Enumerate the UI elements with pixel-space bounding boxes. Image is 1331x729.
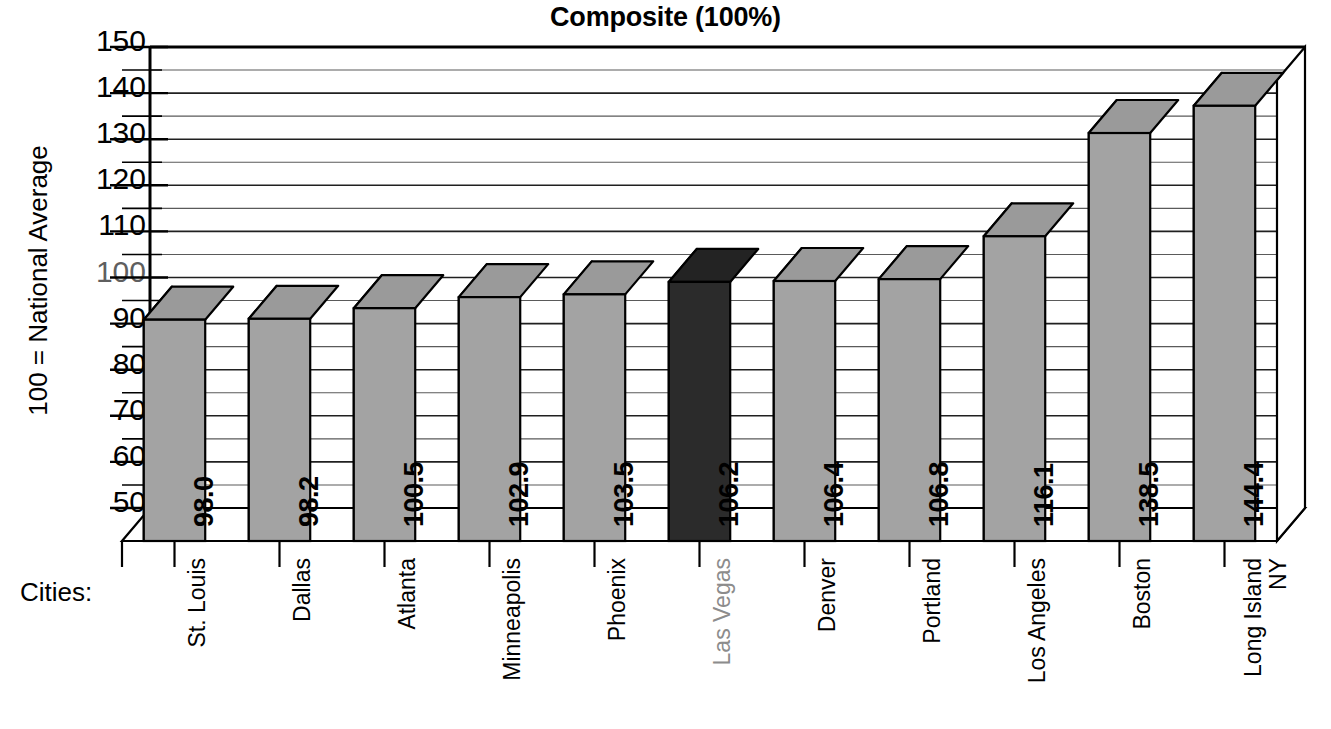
x-axis-category-label-line: St. Louis	[185, 558, 210, 718]
bar-value-label: 144.4	[1239, 462, 1270, 527]
x-axis-category-label-line: Minneapolis	[500, 558, 525, 718]
x-axis-category-label: Denver	[815, 558, 840, 718]
x-axis-category-label-line: Boston	[1130, 558, 1155, 718]
bar-value-label: 106.4	[819, 462, 850, 527]
x-axis-category-label: Las Vegas	[710, 558, 735, 718]
x-axis-category-label-line: Las Vegas	[710, 558, 735, 718]
x-axis-category-label-line: Los Angeles	[1025, 558, 1050, 718]
bar-value-label: 106.8	[924, 462, 955, 527]
bar-value-label: 98.0	[189, 476, 220, 527]
bar-value-label: 102.9	[504, 462, 535, 527]
x-axis-category-label-line: Phoenix	[605, 558, 630, 718]
chart-canvas: Composite (100%) 100 = National Average …	[0, 0, 1331, 729]
x-axis-category-label: Portland	[920, 558, 945, 718]
x-axis-category-label: Boston	[1130, 558, 1155, 718]
x-axis-category-label-line: Atlanta	[395, 558, 420, 718]
x-axis-category-label: Atlanta	[395, 558, 420, 718]
bar-value-label: 100.5	[399, 462, 430, 527]
bar-value-label: 106.2	[714, 462, 745, 527]
x-axis-category-label-line: Denver	[815, 558, 840, 718]
x-axis-category-label: Dallas	[290, 558, 315, 718]
x-axis-category-label-line: Dallas	[290, 558, 315, 718]
x-axis-category-label-line: Long Island	[1241, 558, 1266, 718]
x-axis-category-label: Long IslandNY	[1241, 558, 1291, 718]
x-axis-category-label-line: Portland	[920, 558, 945, 718]
x-axis-category-label-line: NY	[1266, 558, 1291, 718]
bar-value-label: 98.2	[294, 476, 325, 527]
x-axis-category-label: Minneapolis	[500, 558, 525, 718]
bar-value-label: 116.1	[1029, 463, 1060, 527]
x-axis-category-label: St. Louis	[185, 558, 210, 718]
bar-value-label: 138.5	[1134, 462, 1165, 527]
bar-value-label: 103.5	[609, 462, 640, 527]
x-axis-category-label: Phoenix	[605, 558, 630, 718]
x-axis-category-label: Los Angeles	[1025, 558, 1050, 718]
